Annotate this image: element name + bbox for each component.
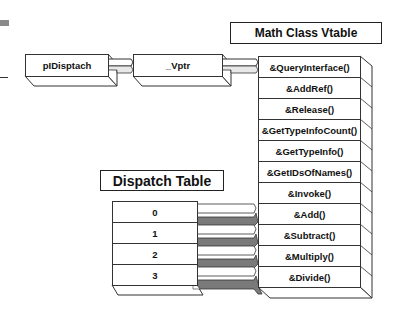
vtable-entry: &Release() xyxy=(258,98,361,120)
dispatch-entry: 0 xyxy=(112,201,198,223)
vtable-entry: &Subtract() xyxy=(258,224,361,246)
dispatch-table-title: Dispatch Table xyxy=(100,170,224,191)
vtable-entry: &Divide() xyxy=(258,266,361,288)
dispatch-entry: 2 xyxy=(112,243,198,265)
dispatch-table: 0 1 2 3 xyxy=(112,201,198,286)
vtable-entry: &GetTypeInfoCount() xyxy=(258,119,361,141)
dispatch-entry: 3 xyxy=(112,264,198,286)
vtable-title: Math Class Vtable xyxy=(230,22,382,44)
dispatch-entry: 1 xyxy=(112,222,198,244)
vtable: &QueryInterface() &AddRef() &Release() &… xyxy=(258,56,361,288)
pidispatch-box: pIDisptach xyxy=(25,54,109,77)
vptr-box: _Vptr xyxy=(133,54,223,77)
vtable-entry: &Add() xyxy=(258,203,361,225)
vtable-entry: &Invoke() xyxy=(258,182,361,204)
vtable-entry: &QueryInterface() xyxy=(258,56,361,78)
vtable-entry: &GetIDsOfNames() xyxy=(258,161,361,183)
vtable-entry: &AddRef() xyxy=(258,77,361,99)
vtable-entry: &Multiply() xyxy=(258,245,361,267)
vtable-entry: &GetTypeInfo() xyxy=(258,140,361,162)
